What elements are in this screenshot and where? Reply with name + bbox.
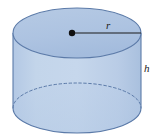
- cylinder-drawing: [0, 0, 159, 135]
- height-label: h: [144, 63, 150, 74]
- center-dot: [69, 30, 75, 36]
- cylinder-figure: r h: [0, 0, 159, 135]
- radius-label: r: [106, 20, 110, 31]
